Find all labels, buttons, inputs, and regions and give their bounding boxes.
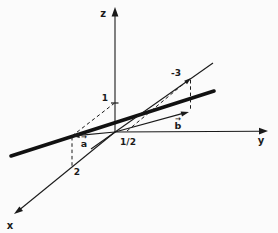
3d-line-vector-diagram: z 1 y 1/2 x 2 -3: [0, 0, 278, 233]
vector-a-label: a: [81, 138, 87, 149]
z-axis-label: z: [100, 8, 106, 19]
minus-three-label: -3: [171, 68, 181, 78]
y-axis-label: y: [258, 135, 265, 146]
y-half-label: 1/2: [120, 137, 136, 147]
x-axis-label: x: [7, 220, 14, 231]
vector-b-label: b: [175, 120, 182, 131]
x-two-label: 2: [74, 167, 80, 177]
z-unit-label: 1: [102, 93, 108, 103]
diagram-canvas: z 1 y 1/2 x 2 -3: [0, 0, 278, 233]
